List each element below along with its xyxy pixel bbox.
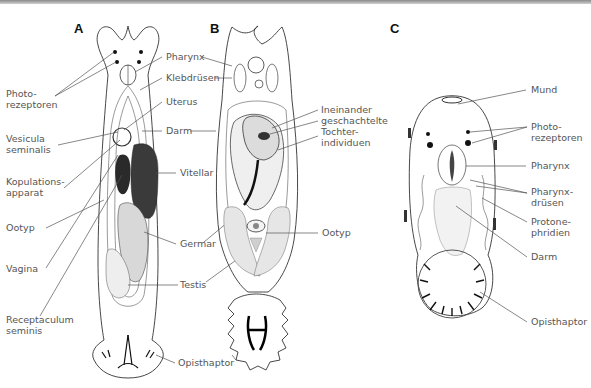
worm-c-opisthaptor — [418, 250, 486, 318]
label-a-ootyp: Ootyp — [6, 222, 35, 233]
label-a-photorezeptoren: Photo- — [6, 88, 37, 99]
label-kopulationsapparat-2: apparat — [6, 187, 43, 198]
label-uterus: Uterus — [166, 96, 197, 107]
label-klebdruesen: Klebdrüsen — [166, 72, 220, 83]
panel-c-label: C — [390, 21, 400, 36]
label-c-pharynx: Pharynx — [531, 160, 570, 171]
label-pharynx: Pharynx — [166, 51, 205, 62]
worm-b-daughter-core — [258, 132, 270, 140]
label-tochter-4: individuen — [321, 137, 371, 148]
worm-b-pharynx — [248, 57, 264, 73]
panel-c: C Mund Photo- rezep — [390, 21, 587, 327]
panel-b-label: B — [210, 21, 219, 36]
panel-b: B Ineinander geschachtelte Tochter- indi… — [210, 21, 388, 370]
worm-a-opisthaptor — [102, 335, 154, 368]
label-ineinander-geschachtelte-tochterindividuen: Ineinander — [321, 104, 372, 115]
worm-b-opisthaptor — [228, 294, 288, 370]
label-germar: Germar — [180, 238, 216, 249]
label-vitellar: Vitellar — [180, 167, 214, 178]
worm-c-mund — [442, 97, 462, 103]
worm-c-darm — [434, 187, 472, 255]
panel-a: A Photo- rezeptoren Ves — [6, 21, 163, 378]
label-pharynxdruesen-2: drüsen — [531, 197, 564, 208]
label-c-photorezeptoren-2: rezeptoren — [531, 132, 583, 143]
figure-canvas: A Photo- rezeptoren Ves — [0, 0, 591, 388]
label-mund: Mund — [531, 84, 557, 95]
label-testis: Testis — [179, 279, 206, 290]
label-receptaculum-seminis-2: seminis — [6, 325, 42, 336]
worm-a-eye — [139, 50, 143, 54]
label-vesicula-seminalis: Vesicula — [6, 133, 45, 144]
label-vagina: Vagina — [6, 263, 38, 274]
worm-c-eye — [427, 142, 433, 148]
label-c-opisthaptor: Opisthaptor — [531, 316, 587, 327]
label-c-photorezeptoren: Photo- — [531, 121, 562, 132]
label-a-photorezeptoren-2: rezeptoren — [6, 99, 58, 110]
worm-a-receptaculum — [115, 154, 130, 194]
label-b-ootyp: Ootyp — [322, 227, 351, 238]
worm-c-eye — [426, 132, 430, 136]
label-protonephridien: Protone- — [531, 216, 571, 227]
worm-b-klebdruese — [234, 64, 246, 92]
worm-b-klebdruese — [266, 64, 278, 92]
panel-a-label: A — [74, 21, 84, 36]
label-opisthaptor: Opisthaptor — [178, 357, 234, 368]
label-c-darm: Darm — [531, 251, 557, 262]
label-tochter-3: Tochter- — [320, 126, 359, 137]
label-darm: Darm — [166, 125, 192, 136]
label-tochter-2: geschachtelte — [321, 115, 388, 126]
label-protonephridien-2: phridien — [531, 227, 570, 238]
label-vesicula-seminalis-2: seminalis — [6, 144, 51, 155]
label-kopulationsapparat: Kopulations- — [6, 176, 65, 187]
worm-c-protonephridien — [418, 175, 424, 250]
label-pharynxdruesen: Pharynx- — [531, 186, 573, 197]
